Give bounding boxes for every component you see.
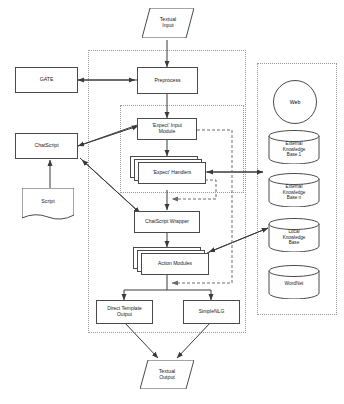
- script-label: Script: [41, 199, 54, 205]
- action-modules-node: Action Modules: [133, 247, 213, 277]
- web-node: Web: [273, 80, 317, 124]
- expect-input-module-node: 'Expect' Input Module: [137, 118, 197, 140]
- preprocess-label: Preprocess: [154, 78, 180, 84]
- simplenlg-label: SimpleNLG: [199, 309, 225, 315]
- external-kb-1-label: External Knowledge Base 1: [268, 141, 320, 158]
- local-kb-label: Local Knowledge Base: [268, 229, 320, 246]
- architecture-diagram: Textual Input Preprocess GATE ChatScript…: [0, 0, 344, 404]
- simplenlg-node: SimpleNLG: [183, 300, 240, 324]
- textual-output-node: Textual Output: [140, 360, 194, 389]
- wordnet-label: WordNet: [268, 281, 320, 286]
- preprocess-node: Preprocess: [137, 67, 198, 94]
- external-kb-n-node: External Knowledge Base n: [268, 173, 320, 207]
- expect-handlers-label: 'Expect' Handlers: [153, 170, 192, 176]
- wordnet-node: WordNet: [268, 265, 320, 299]
- expect-handlers-node: 'Expect' Handlers: [130, 156, 208, 184]
- edge-template-output: [124, 322, 158, 358]
- chatscript-label: ChatScript: [34, 143, 58, 149]
- direct-template-output-node: Direct Template Output: [96, 300, 153, 324]
- chatscript-wrapper-node: ChatScript Wrapper: [134, 211, 200, 233]
- script-node: Script: [22, 188, 74, 221]
- external-kb-n-label: External Knowledge Base n: [268, 184, 320, 201]
- gate-node: GATE: [15, 67, 78, 93]
- chatscript-node: ChatScript: [15, 133, 78, 159]
- chatscript-wrapper-label: ChatScript Wrapper: [145, 219, 189, 225]
- external-kb-1-node: External Knowledge Base 1: [268, 130, 320, 164]
- direct-template-output-label: Direct Template Output: [107, 306, 142, 318]
- textual-input-label: Textual Input: [160, 17, 176, 29]
- action-modules-label: Action Modules: [158, 261, 192, 267]
- textual-input-node: Textual Input: [142, 8, 194, 38]
- gate-label: GATE: [40, 77, 54, 83]
- web-label: Web: [290, 99, 301, 105]
- edge-simplenlg-output: [177, 322, 211, 358]
- local-kb-node: Local Knowledge Base: [268, 218, 320, 252]
- textual-output-label: Textual Output: [159, 369, 175, 381]
- edge-chatscript-expect: [78, 126, 138, 146]
- expect-input-module-label: 'Expect' Input Module: [152, 123, 182, 135]
- edge-kb-actions: [209, 228, 268, 252]
